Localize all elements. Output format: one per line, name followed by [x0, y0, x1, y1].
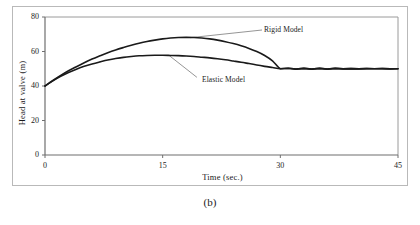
- y-tick-label: 0: [15, 150, 39, 159]
- x-tick-label: 15: [151, 161, 175, 170]
- rigid-model-leader-line: [190, 30, 262, 38]
- x-tick-label: 0: [33, 161, 57, 170]
- y-axis-title: Head at valve (m): [15, 23, 29, 163]
- y-tick-label: 60: [15, 47, 39, 56]
- annotation-elastic-model: Elastic Model: [202, 75, 245, 84]
- annotation-rigid-model: Rigid Model: [264, 25, 303, 34]
- x-axis-title: Time (sec.): [45, 172, 400, 182]
- figure-panel: Head at valve (m) Time (sec.) 020406080 …: [0, 0, 420, 225]
- elastic-model-leader-line: [169, 55, 197, 77]
- y-tick-label: 80: [15, 12, 39, 21]
- figure-caption: (b): [0, 196, 420, 208]
- chart-canvas: [0, 0, 420, 195]
- y-tick-label: 20: [15, 116, 39, 125]
- x-tick-label: 30: [268, 161, 292, 170]
- x-tick-label: 45: [386, 161, 410, 170]
- y-tick-label: 40: [15, 81, 39, 90]
